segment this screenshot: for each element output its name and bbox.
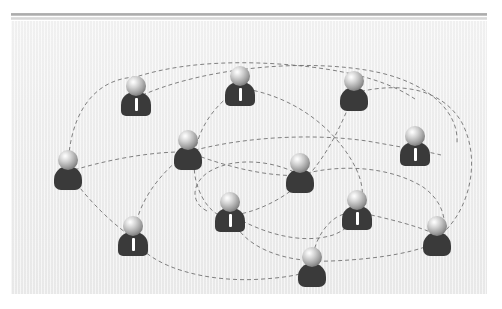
person-icon[interactable] — [295, 247, 329, 287]
person-icon-tie — [356, 212, 359, 225]
network-edge — [133, 238, 312, 280]
person-icon-head — [220, 192, 240, 212]
person-icon-tie — [135, 98, 138, 111]
person-icon[interactable] — [340, 190, 374, 230]
person-icon[interactable] — [116, 216, 150, 256]
person-icon[interactable] — [51, 150, 85, 190]
person-icon[interactable] — [171, 130, 205, 170]
top-divider-bar-inner — [11, 17, 487, 20]
person-icon[interactable] — [119, 76, 153, 116]
network-edge — [230, 212, 357, 239]
person-icon-tie — [239, 88, 242, 101]
person-icon-head — [347, 190, 367, 210]
person-icon[interactable] — [223, 66, 257, 106]
person-icon-head — [405, 126, 425, 146]
person-icon-head — [344, 71, 364, 91]
person-icon-head — [290, 153, 310, 173]
screenshot-root — [0, 0, 502, 309]
person-icon[interactable] — [420, 216, 454, 256]
person-icon-head — [178, 130, 198, 150]
network-edge — [230, 214, 439, 261]
person-icon-head — [126, 76, 146, 96]
person-icon-tie — [132, 238, 135, 251]
person-icon-tie — [414, 148, 417, 161]
network-edge — [68, 152, 188, 172]
person-icon-head — [427, 216, 447, 236]
person-icon-head — [230, 66, 250, 86]
person-icon[interactable] — [213, 192, 247, 232]
person-icon[interactable] — [398, 126, 432, 166]
person-icon-tie — [229, 214, 232, 227]
person-icon-head — [58, 150, 78, 170]
person-icon-head — [123, 216, 143, 236]
person-icon[interactable] — [283, 153, 317, 193]
person-icon-head — [302, 247, 322, 267]
network-diagram-panel — [11, 21, 487, 294]
person-icon[interactable] — [337, 71, 371, 111]
top-divider-bar-outer — [11, 13, 487, 16]
